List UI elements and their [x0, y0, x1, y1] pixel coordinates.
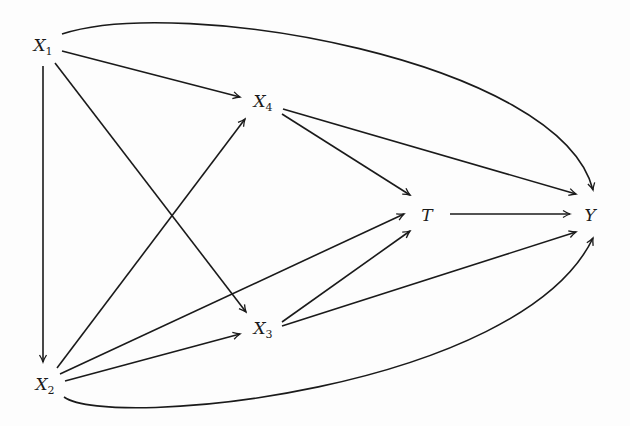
node-x3: X3	[253, 320, 272, 340]
edge-x1-y	[62, 23, 593, 190]
edge-x3-y	[282, 232, 576, 326]
edge-x2-t	[60, 214, 404, 374]
node-x1-label: X	[33, 35, 45, 55]
edge-x3-t	[282, 231, 410, 322]
edge-x2-y	[64, 238, 593, 408]
edges-layer	[0, 0, 630, 426]
node-x3-subscript: 3	[266, 328, 273, 341]
node-x4-label: X	[253, 91, 265, 111]
node-t: T	[421, 207, 432, 224]
node-x2-subscript: 2	[48, 384, 55, 397]
node-x2-label: X	[35, 374, 47, 394]
edge-x4-t	[282, 114, 410, 195]
node-y-label: Y	[584, 205, 595, 225]
node-x3-label: X	[253, 318, 265, 338]
node-x4: X4	[253, 93, 272, 113]
edge-x1-x3	[55, 63, 246, 312]
node-x4-subscript: 4	[266, 101, 273, 114]
causal-diagram: X1 X2 X3 X4 T Y	[0, 0, 630, 426]
edge-x2-x3	[65, 334, 240, 381]
node-x1: X1	[33, 37, 52, 57]
edge-x4-y	[283, 109, 576, 194]
edge-x1-x4	[62, 51, 240, 97]
edge-x2-x4	[57, 119, 245, 368]
node-x1-subscript: 1	[46, 45, 53, 58]
node-x2: X2	[35, 376, 54, 396]
node-t-label: T	[421, 205, 432, 225]
node-y: Y	[584, 207, 595, 224]
